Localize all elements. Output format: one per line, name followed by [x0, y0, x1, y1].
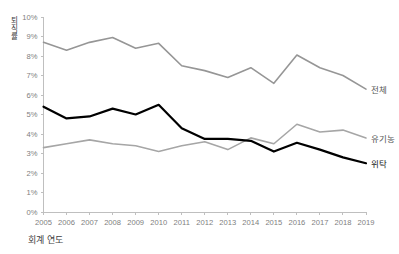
legend-label-total: 전체 [371, 83, 387, 95]
x-tick-label: 2011 [174, 218, 190, 227]
x-tick-label: 2005 [35, 218, 52, 227]
x-tick-label: 2009 [127, 218, 144, 227]
legend-label-organic: 유기농 [371, 132, 395, 144]
x-tick-label: 2007 [81, 218, 98, 227]
chart-figure: 퇴직률 10%9%8%7%6%5%4%3%2%1%0% 200520062007… [0, 0, 399, 254]
x-tick-label: 2015 [265, 218, 282, 227]
x-tick-label: 2012 [196, 218, 213, 227]
y-tick-label: 10% [22, 13, 37, 22]
series-line-total [44, 37, 367, 89]
x-tick-label: 2016 [288, 218, 305, 227]
y-tick-label: 0% [27, 208, 38, 217]
x-tick-label: 2006 [58, 218, 75, 227]
data-series-group [44, 37, 367, 163]
y-tick-label: 4% [27, 130, 38, 139]
y-tick-label: 6% [27, 91, 38, 100]
y-tick-label: 8% [27, 52, 38, 61]
y-tick-label: 7% [27, 71, 38, 80]
x-tick-label: 2013 [219, 218, 236, 227]
x-tick-label: 2017 [311, 218, 328, 227]
legend-label-consignment: 위탁 [371, 157, 387, 169]
x-tick-label: 2014 [242, 218, 259, 227]
y-tick-label: 2% [27, 169, 38, 178]
y-tick-label: 9% [27, 32, 38, 41]
y-tick-label: 3% [27, 149, 38, 158]
y-tick-label: 5% [27, 110, 38, 119]
x-tick-label: 2010 [150, 218, 167, 227]
x-tick-group: 2005200620072008200920102011201220132014… [35, 212, 374, 227]
y-tick-label: 1% [27, 188, 38, 197]
x-axis-group: 2005200620072008200920102011201220132014… [35, 212, 374, 227]
line-chart-plot: 10%9%8%7%6%5%4%3%2%1%0% 2005200620072008… [0, 0, 399, 254]
series-line-consignment [44, 105, 367, 164]
x-tick-label: 2019 [358, 218, 375, 227]
x-axis-title: 회계 연도 [28, 233, 63, 246]
y-axis-group: 10%9%8%7%6%5%4%3%2%1%0% [22, 13, 43, 217]
y-tick-group: 10%9%8%7%6%5%4%3%2%1%0% [22, 13, 43, 217]
x-tick-label: 2008 [104, 218, 121, 227]
x-tick-label: 2018 [335, 218, 352, 227]
